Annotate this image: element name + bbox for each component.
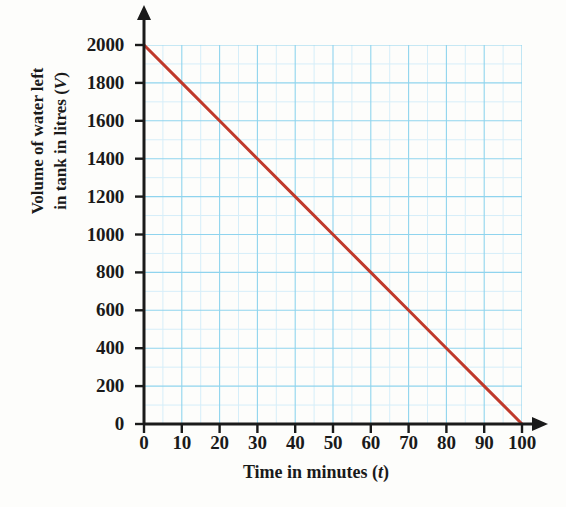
x-tick-label: 50 <box>324 432 343 454</box>
y-axis-title-text: in tank in litres <box>51 99 70 210</box>
x-axis-title: Time in minutes (t) <box>0 462 566 483</box>
chart-figure: 0200400600800100012001400160018002000 01… <box>0 0 566 507</box>
x-tick-label: 40 <box>286 432 305 454</box>
x-tick-label: 70 <box>399 432 418 454</box>
x-axis-variable: t <box>378 462 383 482</box>
x-axis-title-paren: (t) <box>368 462 390 482</box>
x-tick-label: 90 <box>475 432 494 454</box>
y-axis-variable: V <box>51 78 70 89</box>
x-tick-label: 30 <box>248 432 267 454</box>
x-tick-label: 100 <box>508 432 536 454</box>
x-axis-title-text: Time in minutes <box>243 462 368 482</box>
x-axis-tick-labels: 0102030405060708090100 <box>0 0 566 507</box>
y-axis-title: Volume of water left in tank in litres (… <box>27 21 73 261</box>
x-tick-label: 10 <box>172 432 191 454</box>
x-tick-label: 20 <box>210 432 229 454</box>
x-tick-label: 0 <box>139 432 148 454</box>
x-tick-label: 60 <box>361 432 380 454</box>
y-axis-title-line-2: in tank in litres (V) <box>50 21 73 261</box>
y-axis-title-line-1: Volume of water left <box>27 21 50 261</box>
x-tick-label: 80 <box>437 432 456 454</box>
